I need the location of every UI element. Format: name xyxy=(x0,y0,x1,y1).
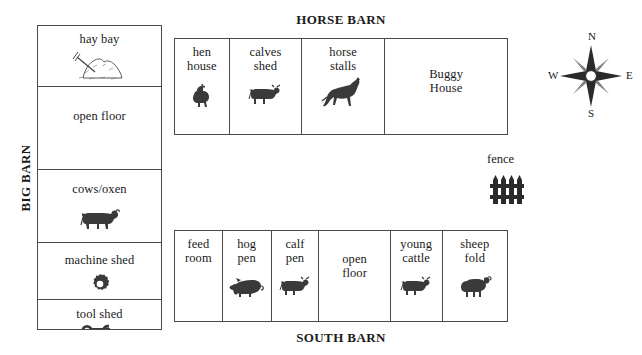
south-barn-cell-hog-pen[interactable]: hog pen xyxy=(222,231,271,321)
horse-barn-cell-hen-house[interactable]: hen house xyxy=(175,39,229,134)
big-barn: hay bay open floor cows/oxen xyxy=(37,25,162,330)
cell-label: tool shed xyxy=(76,308,122,322)
big-barn-cell-tool-shed[interactable]: tool shed xyxy=(38,299,161,329)
south-barn-cell-feed-room[interactable]: feed room xyxy=(175,231,222,321)
compass-rose-icon xyxy=(559,44,623,108)
cell-label: hen house xyxy=(187,46,217,73)
horse-barn: hen house calves shed horse stalls xyxy=(174,38,508,135)
calf-icon xyxy=(399,275,433,297)
calf-icon xyxy=(246,82,284,106)
south-barn-title: SOUTH BARN xyxy=(174,330,508,346)
cow-icon xyxy=(78,205,122,231)
cell-label: calf pen xyxy=(285,238,304,265)
cell-label: young cattle xyxy=(400,238,432,265)
wrench-icon xyxy=(80,324,120,330)
gear-icon xyxy=(89,273,111,295)
cell-label: cows/oxen xyxy=(72,183,126,197)
south-barn-cell-young-cattle[interactable]: young cattle xyxy=(390,231,442,321)
horse-icon xyxy=(320,77,366,111)
horse-barn-cell-buggy-house[interactable]: Buggy House xyxy=(384,39,507,134)
calf-icon xyxy=(278,275,312,297)
compass-label-west: W xyxy=(548,69,558,81)
sheep-icon xyxy=(457,273,493,299)
cell-label: hay bay xyxy=(80,33,120,47)
big-barn-cell-cows-oxen[interactable]: cows/oxen xyxy=(38,169,161,242)
south-barn-cell-sheep-fold[interactable]: sheep fold xyxy=(442,231,507,321)
fence-icon xyxy=(489,170,525,206)
big-barn-cell-open-floor[interactable]: open floor xyxy=(38,86,161,169)
cell-label: horse stalls xyxy=(329,46,357,73)
cell-label: Buggy House xyxy=(429,68,463,95)
pig-icon xyxy=(228,275,266,299)
cell-label: hog pen xyxy=(237,238,256,265)
cell-label: sheep fold xyxy=(460,238,489,265)
horse-barn-cell-horse-stalls[interactable]: horse stalls xyxy=(301,39,384,134)
haystack-icon xyxy=(69,51,131,81)
compass-label-south: S xyxy=(588,107,594,119)
horse-barn-title: HORSE BARN xyxy=(174,12,508,28)
compass-label-east: E xyxy=(626,69,633,81)
cell-label: calves shed xyxy=(250,46,282,73)
compass-label-north: N xyxy=(588,30,596,42)
horse-barn-cell-calves-shed[interactable]: calves shed xyxy=(229,39,301,134)
big-barn-cell-machine-shed[interactable]: machine shed xyxy=(38,242,161,299)
big-barn-cell-hay-bay[interactable]: hay bay xyxy=(38,26,161,86)
big-barn-title: BIG BARN xyxy=(18,133,34,223)
south-barn: feed room hog pen calf pen xyxy=(174,230,508,322)
fence-legend-label: fence xyxy=(487,152,514,167)
south-barn-cell-open-floor[interactable]: open floor xyxy=(318,231,389,321)
cell-label: machine shed xyxy=(65,254,135,268)
south-barn-cell-calf-pen[interactable]: calf pen xyxy=(271,231,319,321)
cell-label: feed room xyxy=(185,238,212,265)
hen-icon xyxy=(189,83,215,109)
cell-label: open floor xyxy=(73,110,126,124)
farm-layout-diagram: BIG BARN hay bay open floor cows/oxen xyxy=(0,0,642,355)
cell-label: open floor xyxy=(342,253,367,280)
